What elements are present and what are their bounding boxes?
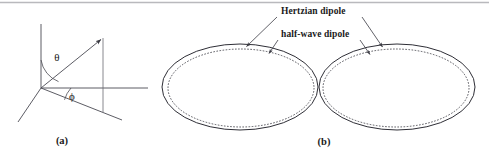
phi-label: ϕ xyxy=(69,90,75,102)
figure-canvas: θ ϕ (a) Hertzian dipole half-wave dipole… xyxy=(0,0,489,155)
hertzian-leader-right xyxy=(362,17,383,47)
panel-b-caption: (b) xyxy=(318,136,331,148)
left-lobe-halfwave-outline xyxy=(168,49,314,127)
theta-label: θ xyxy=(54,51,59,63)
panel-b: Hertzian dipole half-wave dipole (b) xyxy=(162,6,475,148)
right-lobe-halfwave-outline xyxy=(323,49,469,127)
left-lobe-hertzian-outline xyxy=(162,44,318,130)
half-wave-dipole-label: half-wave dipole xyxy=(281,29,349,39)
right-lobe-hertzian-outline xyxy=(319,44,475,130)
figure-container: θ ϕ (a) Hertzian dipole half-wave dipole… xyxy=(0,0,489,155)
panel-a-caption: (a) xyxy=(56,135,69,147)
hertzian-leader-left xyxy=(247,17,278,47)
radial-vector xyxy=(41,40,101,89)
panel-a: θ ϕ (a) xyxy=(18,24,148,147)
hertzian-dipole-label: Hertzian dipole xyxy=(281,6,346,16)
theta-arc xyxy=(41,60,59,82)
azimuth-projection-line xyxy=(41,88,122,120)
x-axis xyxy=(18,88,41,122)
